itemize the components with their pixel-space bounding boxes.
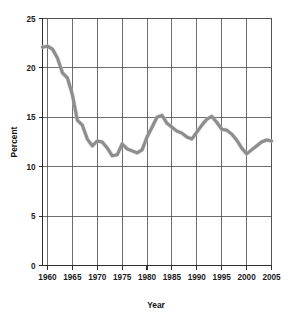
y-axis-title: Percent [9, 126, 19, 157]
y-tick-label: 5 [31, 212, 36, 221]
y-tick-label: 25 [26, 15, 36, 24]
chart-canvas: 0510152025196019651970197519801985199019… [0, 0, 295, 317]
x-tick-label: 1985 [163, 273, 182, 282]
x-tick-label: 1970 [88, 273, 107, 282]
x-tick-label: 1995 [213, 273, 232, 282]
x-tick-label: 2000 [237, 273, 256, 282]
y-tick-label: 15 [26, 113, 36, 122]
x-tick-label: 1960 [38, 273, 57, 282]
y-tick-label: 10 [26, 163, 36, 172]
y-tick-label: 0 [31, 262, 36, 271]
line-chart: 0510152025196019651970197519801985199019… [0, 0, 295, 317]
x-tick-label: 1975 [113, 273, 132, 282]
y-tick-label: 20 [26, 64, 36, 73]
x-tick-label: 1980 [138, 273, 157, 282]
x-axis-title: Year [147, 300, 165, 310]
x-tick-label: 2005 [262, 273, 281, 282]
x-tick-label: 1965 [63, 273, 82, 282]
x-tick-label: 1990 [188, 273, 207, 282]
